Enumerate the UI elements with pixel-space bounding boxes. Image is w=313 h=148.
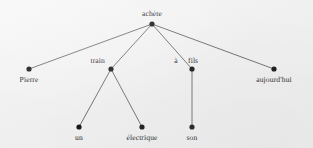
tree-node-son[interactable] (189, 124, 194, 129)
tree-node-fils[interactable] (189, 66, 194, 71)
tree-edge-train-to-un (79, 69, 111, 127)
edges-group (29, 24, 274, 127)
tree-node-label-fils: fils (188, 57, 198, 65)
tree-node-aujourdhui[interactable] (271, 66, 276, 71)
tree-node-label-aujourdhui: aujourd'hui (256, 76, 292, 84)
tree-node-label-achete: achète (142, 10, 162, 18)
tree-edge-achete-to-fils (152, 24, 192, 69)
tree-node-achete[interactable] (149, 21, 154, 26)
tree-node-pierre[interactable] (26, 66, 31, 71)
tree-node-label-train: train (90, 57, 105, 65)
tree-edge-achete-to-aujourdhui (152, 24, 274, 69)
dependency-tree-diagram: achètePierretrainfilsaujourd'huiunélectr… (0, 0, 313, 148)
tree-node-electrique[interactable] (139, 124, 144, 129)
tree-edge-train-to-electrique (111, 69, 142, 127)
tree-edge-achete-to-train (111, 24, 152, 69)
tree-node-train[interactable] (108, 66, 113, 71)
nodes-group (26, 21, 276, 129)
tree-node-label-pierre: Pierre (20, 76, 39, 84)
tree-node-label-un: un (75, 134, 83, 142)
tree-node-un[interactable] (76, 124, 81, 129)
tree-edge-label-a: à (174, 57, 178, 65)
tree-node-label-son: son (187, 134, 198, 142)
tree-node-label-electrique: électrique (126, 134, 157, 142)
tree-graphics (0, 0, 313, 148)
